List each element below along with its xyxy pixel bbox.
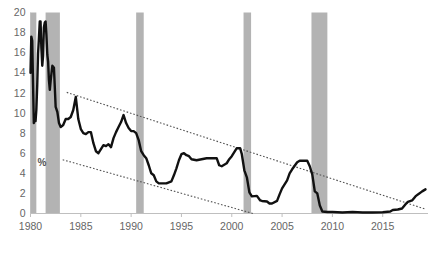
x-axis-ticks: 19801985199019952000200520102015 — [19, 214, 395, 232]
y-axis-tick-label: 18 — [14, 26, 26, 38]
series-path — [31, 22, 426, 213]
x-axis-tick-label: 2000 — [220, 220, 244, 232]
y-axis-tick-label: 6 — [20, 147, 26, 159]
y-axis-tick-label: 8 — [20, 127, 26, 139]
x-axis-tick-label: 2015 — [371, 220, 395, 232]
recession-bands — [31, 13, 328, 214]
x-axis-tick-label: 2005 — [270, 220, 294, 232]
x-axis-tick-label: 1985 — [69, 220, 93, 232]
y-axis-tick-label: 12 — [14, 87, 26, 99]
y-axis-tick-label: 20 — [14, 6, 26, 18]
percent-axis-label: % — [38, 157, 47, 168]
x-axis-tick-label: 2010 — [321, 220, 345, 232]
x-axis-tick-label: 1995 — [170, 220, 194, 232]
y-axis-tick-label: 2 — [20, 187, 26, 199]
x-axis-tick-label: 1980 — [19, 220, 43, 232]
percent-symbol-label: % — [38, 157, 47, 168]
y-axis-tick-label: 16 — [14, 46, 26, 58]
y-axis-ticks: 02468101214161820 — [14, 6, 26, 219]
trend-line — [63, 160, 253, 214]
chart-container: 02468101214161820 1980198519901995200020… — [0, 0, 432, 278]
axis-lines — [31, 13, 429, 214]
y-axis-tick-label: 0 — [20, 207, 26, 219]
y-axis-tick-label: 10 — [14, 107, 26, 119]
recession-band — [136, 13, 144, 214]
y-axis-tick-label: 4 — [20, 167, 26, 179]
y-axis-tick-label: 14 — [14, 66, 26, 78]
x-axis-tick-label: 1990 — [119, 220, 143, 232]
federal-funds-rate-chart: 02468101214161820 1980198519901995200020… — [0, 0, 432, 278]
data-series-line — [31, 22, 426, 213]
